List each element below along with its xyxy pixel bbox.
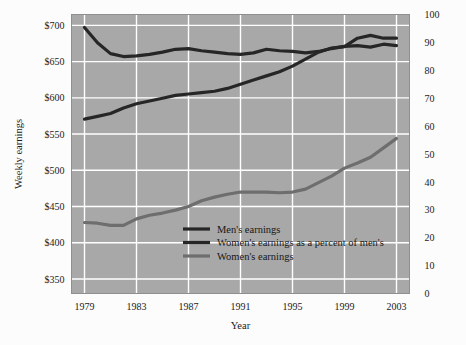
x-axis-tick-label-3: 1991 — [231, 301, 251, 312]
y-axis-right-tick-label-3: 30 — [425, 204, 435, 215]
y-axis-right-tick-label-4: 40 — [425, 177, 435, 188]
y-axis-right-tick-label-5: 50 — [425, 149, 435, 160]
y-axis-left-tick-label-2: $450 — [45, 201, 65, 212]
y-axis-right-tick-label-1: 10 — [425, 260, 435, 271]
y-axis-left-tick-label-4: $550 — [45, 129, 65, 140]
x-axis-tick-label-2: 1987 — [179, 301, 199, 312]
y-axis-left-tick-label-3: $500 — [45, 165, 65, 176]
legend-label-1: Women's earnings as a percent of men's — [217, 237, 384, 248]
y-axis-right-tick-label-7: 70 — [425, 93, 435, 104]
y-axis-right-tick-label-9: 90 — [425, 37, 435, 48]
legend-label-0: Men's earnings — [217, 224, 280, 235]
x-axis-tick-label-6: 2003 — [387, 301, 407, 312]
x-axis-title: Year — [231, 320, 251, 331]
y-axis-right-tick-label-0: 0 — [425, 288, 430, 299]
x-axis-tick-label-1: 1983 — [127, 301, 147, 312]
x-axis-tick-label-5: 1999 — [335, 301, 355, 312]
y-axis-right-tick-label-6: 60 — [425, 121, 435, 132]
y-axis-right-tick-label-8: 80 — [425, 65, 435, 76]
y-axis-left-tick-label-0: $350 — [45, 274, 65, 285]
legend-label-2: Women's earnings — [217, 251, 294, 262]
chart-figure: $350$400$450$500$550$600$650$70001020304… — [0, 0, 466, 345]
y-axis-right-tick-label-10: 100 — [425, 9, 440, 20]
chart-canvas: $350$400$450$500$550$600$650$70001020304… — [0, 0, 466, 345]
y-axis-right-tick-label-2: 20 — [425, 232, 435, 243]
y-axis-left-tick-label-5: $600 — [45, 92, 65, 103]
x-axis-tick-label-4: 1995 — [283, 301, 303, 312]
x-axis-tick-label-0: 1979 — [75, 301, 95, 312]
y-axis-left-tick-label-1: $400 — [45, 237, 65, 248]
y-axis-left-tick-label-7: $700 — [45, 20, 65, 31]
y-axis-left-tick-label-6: $650 — [45, 56, 65, 67]
y-axis-title: Weekly earnings — [13, 119, 24, 189]
